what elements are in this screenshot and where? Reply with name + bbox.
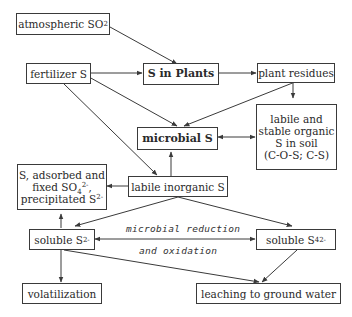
node-leaching-label: leaching to ground water <box>201 288 336 300</box>
edge-label-and-oxidation: and oxidation <box>139 245 217 256</box>
node-labile-inorganic-s: labile inorganic S <box>128 176 228 197</box>
node-soluble-s4: soluble S42- <box>256 229 336 250</box>
organic-s-line-2: stable organic <box>259 125 335 137</box>
node-volatilization-label: volatilization <box>28 288 97 300</box>
node-microbial-s-label: microbial S <box>142 133 213 145</box>
node-plant-residues: plant residues <box>257 63 335 83</box>
node-leaching: leaching to ground water <box>196 283 341 304</box>
node-organic-s-soil: labile and stable organic S in soil (C-O… <box>256 104 337 170</box>
adsorbed-line-2: fixed SO42-, <box>32 181 92 193</box>
node-fertilizer-s-label: fertilizer S <box>30 68 87 80</box>
node-fertilizer-s: fertilizer S <box>26 63 91 84</box>
organic-s-line-4: (C-O-S; C-S) <box>264 149 329 161</box>
node-atmospheric-so2-label: atmospheric SO <box>18 18 103 30</box>
node-volatilization: volatilization <box>22 283 102 304</box>
organic-s-line-1: labile and <box>270 113 322 125</box>
edge-soluble-s4-to-leaching <box>262 250 297 282</box>
node-adsorbed-fixed: S, adsorbed and fixed SO42-, precipitate… <box>17 164 107 210</box>
node-soluble-s4-label: soluble S <box>266 234 315 246</box>
edge-labile-to-soluble-s4 <box>178 197 292 226</box>
node-plant-residues-label: plant residues <box>258 67 334 79</box>
adsorbed-line-1: S, adsorbed and <box>19 169 105 181</box>
node-soluble-s2-label: soluble S <box>34 234 83 246</box>
edge-atmospheric-to-plants <box>110 27 177 64</box>
node-microbial-s: microbial S <box>137 127 218 150</box>
adsorbed-line-3: precipitated S2- <box>21 193 103 205</box>
node-s-in-plants-label: S in Plants <box>148 68 215 80</box>
node-s-in-plants: S in Plants <box>143 63 219 85</box>
node-atmospheric-so2: atmospheric SO2 <box>16 13 110 35</box>
edge-label-microbial-reduction: microbial reduction <box>126 223 240 234</box>
organic-s-line-3: S in soil <box>275 137 317 149</box>
node-soluble-s2: soluble S2- <box>29 229 95 250</box>
node-labile-inorganic-s-label: labile inorganic S <box>131 181 225 193</box>
